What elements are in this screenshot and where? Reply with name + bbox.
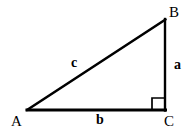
side-label-b: b [96,113,104,127]
vertex-label-b: B [169,5,179,20]
vertex-label-a: A [11,114,22,129]
side-label-c: c [71,56,77,70]
side-c-line [27,20,166,111]
right-angle-marker [152,98,165,110]
side-label-a: a [174,58,181,72]
vertex-label-c: C [164,114,174,129]
right-triangle-figure: A B C a b c [0,0,195,133]
